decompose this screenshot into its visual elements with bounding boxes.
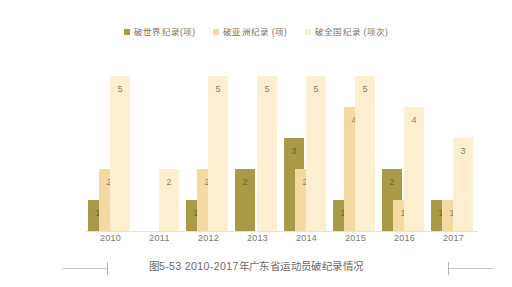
legend-swatch-national-icon [305,29,311,35]
x-axis: 20102011201220132014201520162017 [86,233,478,247]
bar-value-2016-series1: 2 [382,178,402,187]
bar-2014-series3[interactable] [306,76,326,231]
x-tick-2017: 2017 [421,233,487,243]
bar-value-2014-series1: 3 [284,147,304,156]
legend-item-world: 破世界纪录(项) [124,28,195,37]
bar-value-2013-series3: 5 [257,85,277,94]
crop-mark-left [62,262,108,276]
bar-value-2014-series3: 5 [306,85,326,94]
legend-swatch-asia-icon [213,29,219,35]
bar-group-2014: 325 [282,52,331,231]
bar-group-2011: 2 [135,52,184,231]
crop-mark-right-rule [448,268,494,269]
bar-group-2013: 25 [233,52,282,231]
bar-value-2011-series3: 2 [159,178,179,187]
bar-value-2012-series3: 5 [208,85,228,94]
bar-group-2010: 125 [86,52,135,231]
bar-2012-series3[interactable] [208,76,228,231]
plot-area: 125212525325145214113 [86,52,478,231]
crop-mark-left-tick [107,262,108,275]
bar-group-2017: 113 [429,52,478,231]
bar-value-2010-series3: 5 [110,85,130,94]
legend-label-world: 破世界纪录(项) [134,28,195,37]
bar-group-2012: 125 [184,52,233,231]
crop-mark-left-rule [62,268,108,269]
bar-value-2013-series1: 2 [235,178,255,187]
bar-2016-series3[interactable] [404,107,424,231]
bar-value-2015-series3: 5 [355,85,375,94]
bar-group-2015: 145 [331,52,380,231]
bar-value-2017-series3: 3 [453,147,473,156]
legend-swatch-world-icon [124,29,130,35]
legend-label-national: 破全国纪录 (项次) [315,28,388,37]
chart-legend: 破世界纪录(项) 破亚洲纪录 (项) 破全国纪录 (项次) [0,24,512,40]
legend-label-asia: 破亚洲纪录 (项) [223,28,287,37]
legend-item-national: 破全国纪录 (项次) [305,28,388,37]
legend-item-asia: 破亚洲纪录 (项) [213,28,287,37]
bar-2010-series3[interactable] [110,76,130,231]
bar-2015-series3[interactable] [355,76,375,231]
crop-mark-right-tick [448,262,449,275]
axis-baseline [86,231,478,232]
bar-group-2016: 214 [380,52,429,231]
bar-2013-series3[interactable] [257,76,277,231]
bar-value-2016-series3: 4 [404,116,424,125]
figure-container: 破世界纪录(项) 破亚洲纪录 (项) 破全国纪录 (项次) 1252125253… [0,0,512,287]
crop-mark-right [448,262,494,276]
